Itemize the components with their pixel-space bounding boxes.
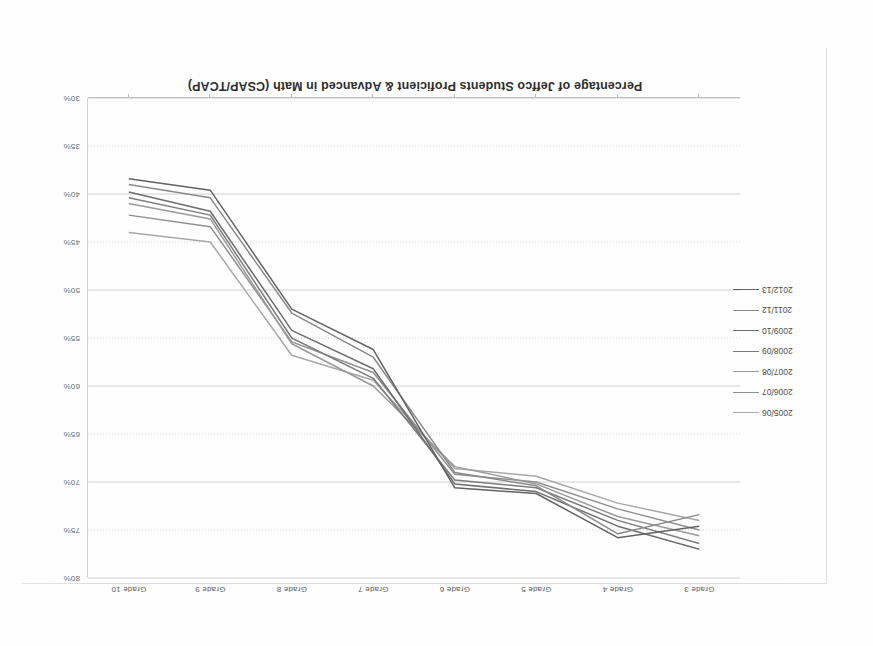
x-axis-line: [88, 97, 740, 98]
x-axis-tick: [209, 94, 210, 98]
series-line-2008-09: [129, 198, 700, 544]
legend-label: 2009/10: [762, 326, 793, 336]
scanned-page: 30%35%40%45%50%55%60%65%70%75%80% Grade …: [0, 0, 873, 646]
chart-title: Percentage of Jeffco Students Proficient…: [45, 79, 785, 93]
legend-swatch: [733, 289, 759, 290]
legend-item-2012-13[interactable]: 2012/13: [733, 280, 833, 301]
x-tick-label: Grade 5: [501, 585, 571, 594]
legend-swatch: [733, 330, 759, 331]
series-line-2007-08: [129, 204, 700, 536]
legend-item-2009-10[interactable]: 2009/10: [733, 321, 833, 342]
legend-label: 2006/07: [762, 387, 793, 397]
series-line-2006-07: [129, 215, 700, 530]
rotated-page-content: 30%35%40%45%50%55%60%65%70%75%80% Grade …: [0, 0, 873, 646]
y-axis-line: [87, 98, 88, 578]
legend-item-2005-06[interactable]: 2005/06: [733, 403, 833, 424]
legend-swatch: [733, 310, 759, 311]
series-line-2011-12: [129, 184, 700, 533]
legend-label: 2012/13: [762, 285, 793, 295]
x-tick-label: Grade 4: [583, 585, 653, 594]
plot-area: 30%35%40%45%50%55%60%65%70%75%80% Grade …: [88, 98, 740, 578]
x-axis-tick: [617, 94, 618, 98]
legend-item-2007-08[interactable]: 2007/08: [733, 362, 833, 383]
legend-label: 2007/08: [762, 367, 793, 377]
data-lines: [88, 98, 740, 578]
y-tick-label: 75%: [38, 526, 80, 535]
legend-item-2006-07[interactable]: 2006/07: [733, 382, 833, 403]
legend-swatch: [733, 412, 759, 413]
legend-item-2008-09[interactable]: 2008/09: [733, 341, 833, 362]
chart: 30%35%40%45%50%55%60%65%70%75%80% Grade …: [45, 58, 785, 598]
y-tick-label: 40%: [38, 190, 80, 199]
x-tick-label: Grade 10: [94, 585, 164, 594]
legend-label: 2011/12: [762, 305, 792, 315]
y-tick-label: 60%: [38, 382, 80, 391]
x-axis-tick: [372, 94, 373, 98]
y-tick-label: 80%: [38, 574, 80, 583]
legend-swatch: [733, 351, 759, 352]
x-axis-tick: [291, 94, 292, 98]
y-tick-label: 70%: [38, 478, 80, 487]
x-tick-label: Grade 7: [338, 585, 408, 594]
x-tick-label: Grade 3: [664, 585, 734, 594]
x-tick-label: Grade 8: [257, 585, 327, 594]
series-line-2009-10: [129, 192, 700, 549]
y-tick-label: 50%: [38, 286, 80, 295]
x-axis-tick: [698, 94, 699, 98]
legend-label: 2008/09: [762, 346, 793, 356]
legend-item-2011-12[interactable]: 2011/12: [733, 300, 833, 321]
y-tick-label: 35%: [38, 142, 80, 151]
legend-label: 2005/06: [762, 408, 793, 418]
y-tick-label: 55%: [38, 334, 80, 343]
y-tick-label: 30%: [38, 94, 80, 103]
legend: 2005/062006/072007/082008/092009/102011/…: [733, 280, 833, 424]
x-axis-tick: [535, 94, 536, 98]
y-tick-label: 65%: [38, 430, 80, 439]
x-axis-tick: [128, 94, 129, 98]
legend-swatch: [733, 371, 759, 372]
series-line-2005-06: [129, 232, 700, 520]
x-tick-label: Grade 6: [420, 585, 490, 594]
legend-swatch: [733, 392, 759, 393]
x-axis-tick: [454, 94, 455, 98]
x-tick-label: Grade 9: [175, 585, 245, 594]
y-tick-label: 45%: [38, 238, 80, 247]
